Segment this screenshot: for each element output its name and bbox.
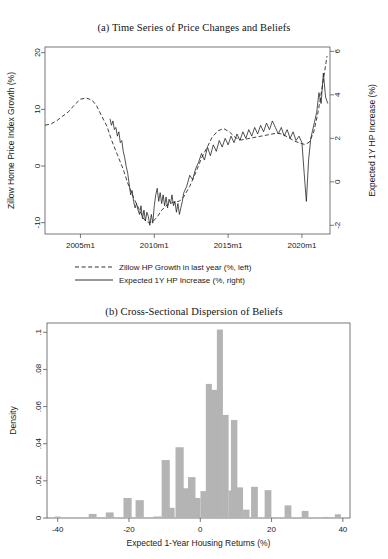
- panel-a-left-ticklabel: 0: [33, 163, 42, 168]
- panel-b-bar: [323, 517, 329, 518]
- panel-a-left-ticklabel: 20: [33, 48, 42, 57]
- panel-a-right-ticklabel: 6: [333, 49, 342, 54]
- panel-b-bar: [243, 510, 249, 518]
- panel-b-bar: [89, 514, 97, 518]
- panel-b-bar: [206, 384, 212, 518]
- panel-b-bar: [211, 390, 217, 518]
- figure-root: (a) Time Series of Price Changes and Bel…: [0, 0, 388, 559]
- panel-a-x-ticklabel: 2005m1: [66, 241, 95, 250]
- panel-b-bar: [302, 511, 309, 518]
- panel-a-right-axis-title: Expected 1Y HP Increase (%): [367, 84, 377, 197]
- panel-b-bar: [285, 505, 292, 518]
- panel-b-y-ticklabel: .08: [34, 363, 43, 375]
- panel-a-right-ticklabel: -2: [333, 221, 342, 229]
- panel-b-bar: [237, 487, 243, 518]
- panel-b-bar: [217, 330, 223, 519]
- panel-b-frame: [47, 323, 350, 518]
- panel-a-legend-label-1: Zillow HP Growth in last year (%, left): [119, 263, 252, 272]
- panel-b-bar: [223, 415, 229, 518]
- panel-a-x-ticklabel: 2020m1: [287, 241, 316, 250]
- panel-b-bar: [200, 491, 206, 518]
- panel-a: (a) Time Series of Price Changes and Bel…: [0, 0, 388, 300]
- panel-a-title: (a) Time Series of Price Changes and Bel…: [0, 22, 388, 33]
- panel-b-bar: [176, 447, 184, 518]
- panel-b-plot: 0.02.04.06.08.1-40-2002040DensityExpecte…: [0, 300, 388, 559]
- panel-b-title: (b) Cross-Sectional Dispersion of Belief…: [0, 306, 388, 317]
- panel-b-y-ticklabel: .06: [34, 400, 43, 412]
- panel-a-right-ticklabel: 4: [333, 92, 342, 97]
- panel-b-bar: [136, 500, 144, 518]
- panel-b-x-ticklabel: -40: [52, 525, 64, 534]
- panel-a-series-1: [45, 56, 327, 223]
- panel-b-bar: [169, 508, 175, 518]
- panel-b-bar: [55, 517, 61, 518]
- panel-b-bar: [194, 498, 200, 518]
- panel-b-y-ticklabel: 0: [34, 515, 43, 520]
- panel-b-bar: [265, 490, 272, 518]
- panel-a-left-axis-title: Zillow Home Price Index Growth (%): [6, 72, 16, 209]
- panel-b-x-axis-title: Expected 1-Year Housing Returns (%): [127, 538, 271, 548]
- panel-a-plot: 20100-106420-22005m12010m12015m12020m1Zi…: [0, 0, 388, 300]
- panel-a-right-ticklabel: 0: [333, 179, 342, 184]
- panel-b-bar: [153, 517, 161, 518]
- panel-a-frame: [45, 47, 330, 234]
- panel-a-left-ticklabel: -10: [33, 216, 42, 228]
- panel-b-x-ticklabel: 20: [267, 525, 276, 534]
- panel-a-right-ticklabel: 2: [333, 136, 342, 141]
- panel-b-bar: [251, 487, 258, 518]
- panel-b-y-ticklabel: .1: [34, 328, 43, 335]
- panel-b-bar: [106, 512, 114, 518]
- panel-b-y-axis-title: Density: [8, 406, 18, 435]
- panel-b-x-ticklabel: 40: [338, 525, 347, 534]
- panel-b-bar: [188, 477, 195, 518]
- panel-b: (b) Cross-Sectional Dispersion of Belief…: [0, 300, 388, 559]
- panel-a-legend-label-2: Expected 1Y HP Increase (%, right): [119, 276, 245, 285]
- panel-b-y-ticklabel: .04: [34, 438, 43, 450]
- panel-b-x-ticklabel: -20: [123, 525, 135, 534]
- panel-b-bar: [335, 514, 341, 518]
- panel-b-bar: [123, 498, 131, 518]
- panel-b-bar: [162, 460, 170, 518]
- panel-a-x-ticklabel: 2010m1: [140, 241, 169, 250]
- panel-b-y-ticklabel: .02: [34, 475, 43, 487]
- panel-b-x-ticklabel: 0: [198, 525, 203, 534]
- panel-a-left-ticklabel: 10: [33, 104, 42, 113]
- panel-b-bar: [231, 420, 237, 518]
- panel-a-x-ticklabel: 2015m1: [214, 241, 243, 250]
- panel-a-series-2: [110, 73, 328, 225]
